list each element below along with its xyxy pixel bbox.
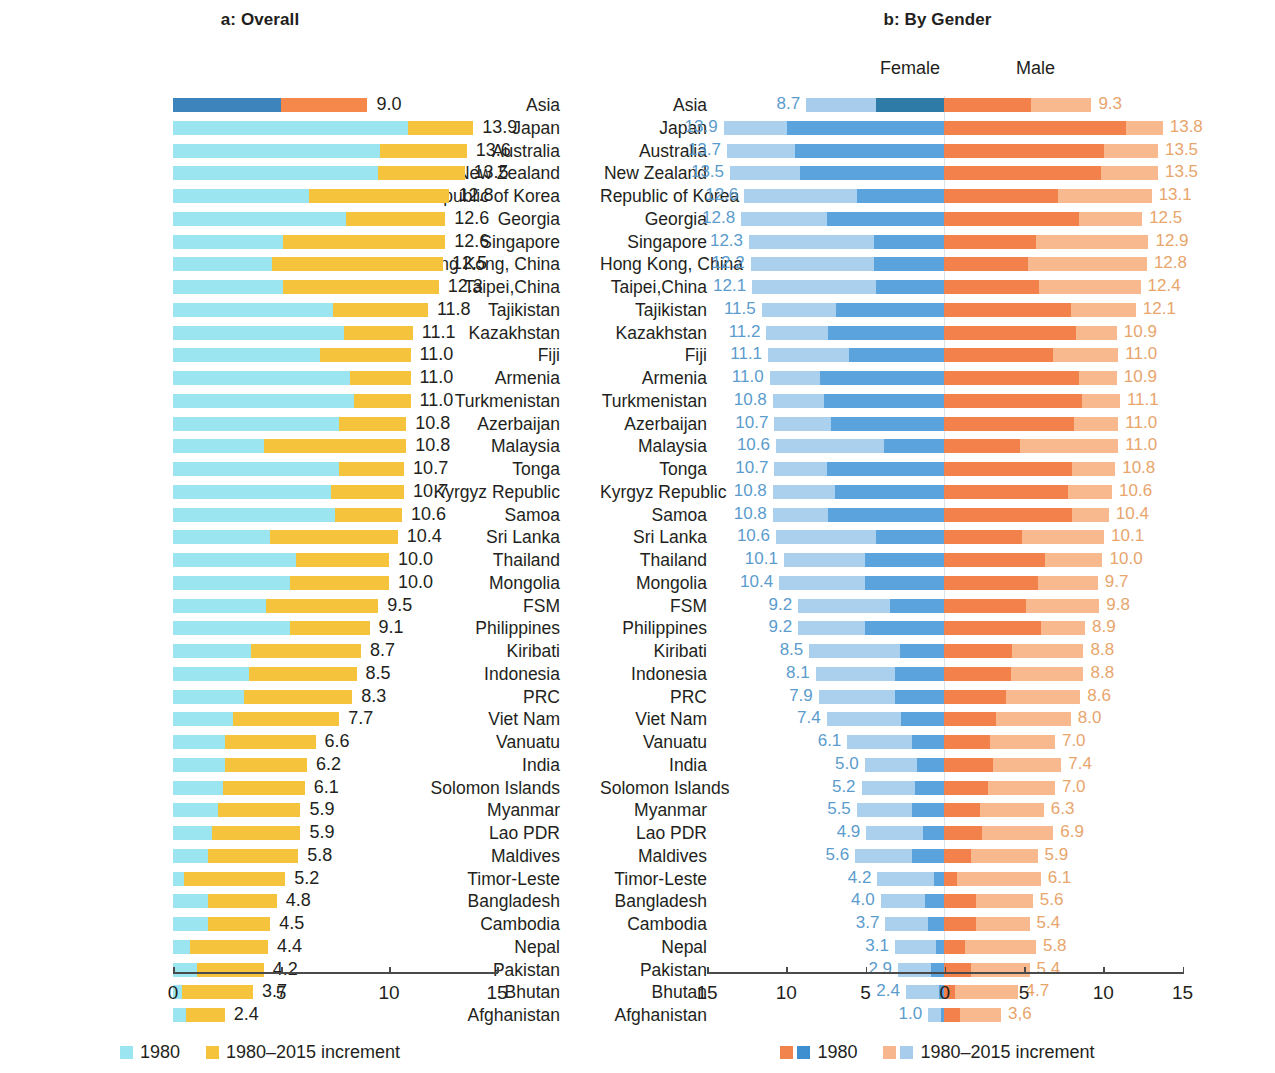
country-label: Sri Lanka (600, 528, 707, 546)
male-stacked-bar (944, 189, 1152, 203)
male-value-label: 5.9 (1045, 846, 1069, 864)
bar-segment-1980 (173, 530, 270, 544)
bar-segment-1980 (173, 394, 354, 408)
country-label: Turkmenistan (600, 392, 707, 410)
overall-row: New Zealand13.5 (0, 164, 560, 187)
country-label: Timor-Leste (600, 870, 707, 888)
overall-row: Solomon Islands6.1 (0, 779, 560, 802)
male-segment-increment (1022, 530, 1104, 544)
female-segment-1980 (915, 781, 944, 795)
male-segment-1980 (944, 530, 1022, 544)
bar-segment-increment (344, 326, 413, 340)
male-value-label: 5.8 (1043, 937, 1067, 955)
female-value-label: 8.1 (772, 664, 810, 682)
female-value-label: 4.0 (837, 891, 875, 909)
stacked-bar (173, 348, 411, 362)
female-value-label: 10.4 (735, 573, 773, 591)
male-segment-increment (957, 872, 1041, 886)
male-stacked-bar (944, 439, 1118, 453)
axis-tick-label: 15 (486, 982, 507, 1004)
female-stacked-bar (784, 553, 944, 567)
country-label: Solomon Islands (600, 779, 707, 797)
figure-root: a: Overall b: By Gender Female Male Asia… (0, 0, 1275, 1073)
female-segment-increment (776, 530, 876, 544)
male-segment-increment (976, 894, 1033, 908)
female-stacked-bar (774, 462, 944, 476)
country-label: Kiribati (600, 642, 707, 660)
bar-segment-increment (233, 712, 339, 726)
male-value-label: 6.1 (1048, 869, 1072, 887)
axis-tick-label: 10 (378, 982, 399, 1004)
male-segment-increment (1101, 166, 1158, 180)
bar-segment-increment (225, 735, 316, 749)
male-segment-1980 (944, 894, 976, 908)
country-label: Myanmar (392, 801, 560, 819)
male-segment-increment (1038, 576, 1098, 590)
bar-segment-1980 (173, 462, 339, 476)
female-segment-increment (865, 758, 917, 772)
male-segment-1980 (944, 712, 996, 726)
male-segment-increment (982, 826, 1053, 840)
male-value-label: 13.5 (1165, 163, 1198, 181)
bar-segment-1980 (173, 189, 309, 203)
country-label: FSM (392, 597, 560, 615)
female-stacked-bar (862, 781, 944, 795)
bar-value-label: 4.4 (277, 937, 302, 955)
country-label: India (392, 756, 560, 774)
male-segment-1980 (944, 508, 1072, 522)
by-gender-row: Samoa10.810.4 (600, 506, 1275, 529)
overall-row: FSM9.5 (0, 597, 560, 620)
stacked-bar (173, 985, 253, 999)
female-segment-1980 (800, 166, 944, 180)
female-stacked-bar (866, 826, 944, 840)
overall-row: Malaysia10.8 (0, 437, 560, 460)
male-value-label: 13.8 (1170, 118, 1203, 136)
bar-value-label: 4.5 (279, 914, 304, 932)
by-gender-row: Singapore12.312.9 (600, 233, 1275, 256)
by-gender-row: Solomon Islands5.27.0 (600, 779, 1275, 802)
overall-row: Japan13.9 (0, 119, 560, 142)
female-segment-increment (798, 599, 890, 613)
male-segment-increment (1045, 553, 1102, 567)
female-stacked-bar (774, 417, 944, 431)
axis-tick-label: 5 (1019, 982, 1030, 1004)
bar-segment-increment (350, 371, 410, 385)
male-value-label: 8.8 (1090, 641, 1114, 659)
bar-segment-1980 (173, 485, 331, 499)
bar-segment-increment (208, 894, 277, 908)
female-segment-1980 (836, 303, 944, 317)
male-stacked-bar (944, 826, 1053, 840)
overall-row: Turkmenistan11.0 (0, 392, 560, 415)
axis-tick (1024, 967, 1026, 973)
male-segment-1980 (944, 781, 988, 795)
bar-segment-increment (197, 963, 264, 977)
by-gender-row: Kiribati8.58.8 (600, 642, 1275, 665)
female-segment-increment (768, 348, 849, 362)
stacked-bar (173, 644, 361, 658)
overall-row: Nepal4.4 (0, 938, 560, 961)
male-value-label: 10.0 (1110, 550, 1143, 568)
by-gender-row: Cambodia3.75.4 (600, 915, 1275, 938)
male-stacked-bar (944, 803, 1044, 817)
male-segment-increment (1039, 280, 1140, 294)
bar-value-label: 10.7 (413, 459, 448, 477)
male-value-label: 3,6 (1008, 1005, 1032, 1023)
by-gender-row: Mongolia10.49.7 (600, 574, 1275, 597)
female-value-label: 9.2 (754, 618, 792, 636)
female-stacked-bar (744, 189, 944, 203)
bar-segment-increment (331, 485, 404, 499)
female-value-label: 13.7 (683, 141, 721, 159)
stacked-bar (173, 326, 413, 340)
male-segment-increment (1126, 121, 1162, 135)
country-label: Lao PDR (600, 824, 707, 842)
male-segment-1980 (944, 553, 1045, 567)
female-segment-1980 (936, 940, 944, 954)
by-gender-row: Philippines9.28.9 (600, 619, 1275, 642)
bar-value-label: 10.7 (413, 482, 448, 500)
male-stacked-bar (944, 212, 1142, 226)
female-value-label: 13.9 (680, 118, 718, 136)
female-segment-1980 (925, 894, 944, 908)
country-label: Fiji (600, 346, 707, 364)
bar-segment-1980 (173, 371, 350, 385)
bar-segment-1980 (173, 439, 264, 453)
